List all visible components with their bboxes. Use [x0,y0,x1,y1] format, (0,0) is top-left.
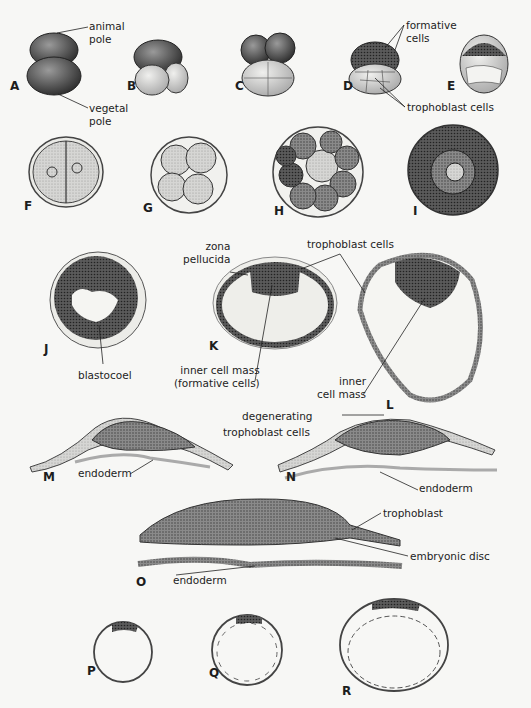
panel-letter-c: C [235,79,244,93]
stage-k [213,254,340,381]
panel-letter-j: J [44,342,48,356]
label-endoderm-m: endoderm [78,467,132,480]
stage-f [29,137,103,207]
label-inner-cell-mass-k: inner cell mass (formative cells) [174,364,260,390]
stage-i [408,125,498,215]
stage-p [94,622,152,682]
label-trophoblast-cells-top: trophoblast cells [407,101,494,114]
label-blastocoel: blastocoel [78,369,132,382]
panel-letter-n: N [286,470,296,484]
label-zona-pellucida: zona pellucida [183,240,230,266]
stage-b [134,40,188,95]
label-endoderm-n: endoderm [419,482,473,495]
panel-letter-h: H [274,204,284,218]
stage-h [273,127,363,217]
embryo-development-figure: A B C D E F G H I J K L M N O P Q R anim… [0,0,531,708]
label-trophoblast-o: trophoblast [383,507,443,520]
stage-e [460,35,508,93]
stage-j [50,252,146,364]
label-inner-cell-mass-l: inner cell mass [317,375,366,401]
panel-letter-b: B [127,79,136,93]
panel-letter-m: M [43,470,55,484]
panel-letter-i: I [413,204,417,218]
panel-letter-k: K [209,339,218,353]
stage-q [212,615,282,685]
stage-d [349,25,405,107]
panel-letter-d: D [343,79,353,93]
stage-c [241,33,295,96]
label-endoderm-o: endoderm [173,574,227,587]
panel-letter-r: R [342,684,351,698]
stage-r [340,599,448,691]
panel-letter-g: G [143,201,153,215]
label-formative-cells: formative cells [406,19,457,45]
label-trophoblast-cells-mid: trophoblast cells [307,238,394,251]
panel-letter-e: E [447,79,455,93]
stage-a-two-cell [27,27,88,108]
panel-letter-l: L [386,398,394,412]
panel-letter-p: P [87,664,96,678]
label-vegetal-pole: vegetal pole [89,102,128,128]
panel-letter-q: Q [209,666,219,680]
stage-m [30,418,233,474]
stage-g [151,137,227,213]
panel-letter-f: F [24,199,32,213]
panel-letter-o: O [136,575,146,589]
label-embryonic-disc: embryonic disc [410,550,490,563]
stage-o [138,499,408,575]
label-degenerating-trophoblast: degenerating trophoblast cells [223,408,312,440]
panel-letter-a: A [10,79,19,93]
label-animal-pole: animal pole [89,20,125,46]
